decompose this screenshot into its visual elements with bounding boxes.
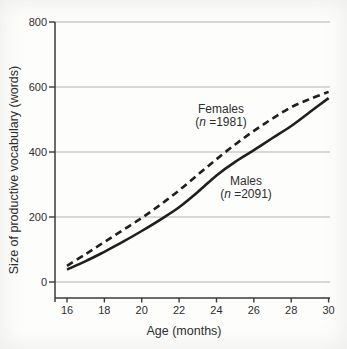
x-tick-label-30: 30 [315, 304, 343, 316]
y-tick-label-800: 800 [15, 16, 47, 28]
y-tick-label-600: 600 [15, 81, 47, 93]
x-tick-label-26: 26 [240, 304, 268, 316]
y-tick-label-200: 200 [15, 211, 47, 223]
females-series-label: Females (n =1981) [195, 103, 247, 129]
y-tick-label-400: 400 [15, 146, 47, 158]
x-axis-title: Age (months) [146, 324, 221, 338]
x-tick-label-18: 18 [90, 304, 118, 316]
y-tick-label-0: 0 [15, 276, 47, 288]
males-series-label: Males (n =2091) [220, 175, 272, 201]
x-tick-label-28: 28 [277, 304, 305, 316]
males-n-count: (n =2091) [220, 188, 272, 201]
x-tick-label-20: 20 [128, 304, 156, 316]
plot-area [0, 0, 347, 349]
x-tick-label-22: 22 [165, 304, 193, 316]
x-tick-label-16: 16 [53, 304, 81, 316]
females-n-count: (n =1981) [195, 116, 247, 129]
vocabulary-growth-chart: Size of productive vocabulary (words) Ag… [0, 0, 347, 349]
x-tick-label-24: 24 [202, 304, 230, 316]
y-axis-title: Size of productive vocabulary (words) [7, 66, 21, 274]
